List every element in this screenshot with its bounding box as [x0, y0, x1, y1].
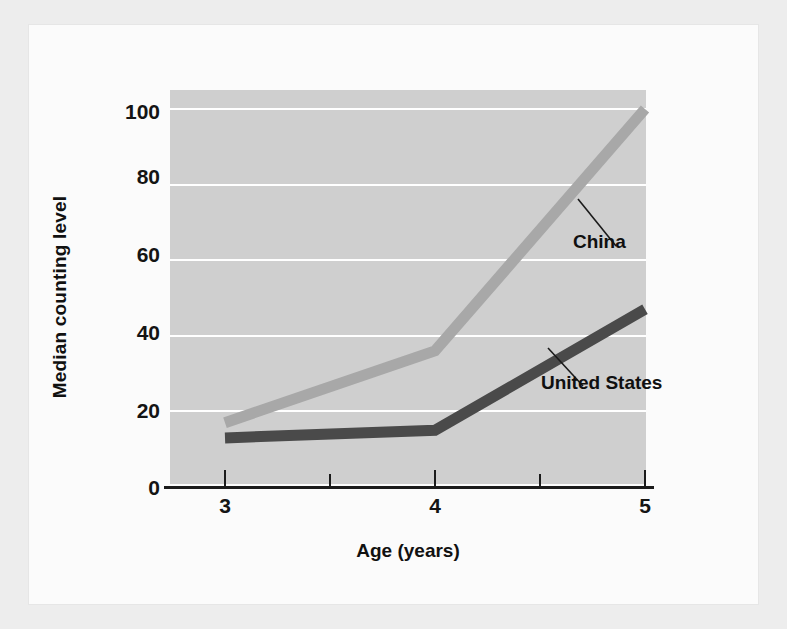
series-label-china: China — [573, 231, 626, 253]
y-tick-label-100: 100 — [104, 100, 160, 124]
x-tick-5 — [644, 470, 646, 486]
gridline-20 — [170, 410, 646, 412]
gridline-40 — [170, 335, 646, 337]
y-axis-title: Median counting level — [49, 147, 71, 447]
gridline-80 — [170, 184, 646, 186]
x-tick-label-3: 3 — [195, 494, 255, 518]
x-tick-minor-3-5 — [329, 474, 331, 486]
y-tick-label-40: 40 — [104, 321, 160, 345]
x-axis-title: Age (years) — [170, 540, 646, 562]
y-tick-label-20: 20 — [104, 399, 160, 423]
x-tick-3 — [224, 470, 226, 486]
x-tick-label-4: 4 — [405, 494, 465, 518]
y-tick-label-60: 60 — [104, 243, 160, 267]
y-tick-label-0: 0 — [104, 476, 160, 500]
x-tick-minor-4-5 — [539, 474, 541, 486]
x-axis-line — [164, 486, 654, 489]
line-chart: 100 80 60 40 20 0 3 4 5 Median counting … — [0, 0, 787, 629]
figure-page: 100 80 60 40 20 0 3 4 5 Median counting … — [0, 0, 787, 629]
x-tick-label-5: 5 — [615, 494, 675, 518]
series-label-united-states: United States — [541, 372, 662, 394]
gridline-100 — [170, 108, 646, 110]
y-tick-label-80: 80 — [104, 165, 160, 189]
plot-area-background — [170, 90, 646, 484]
gridline-60 — [170, 259, 646, 261]
x-tick-4 — [434, 470, 436, 486]
